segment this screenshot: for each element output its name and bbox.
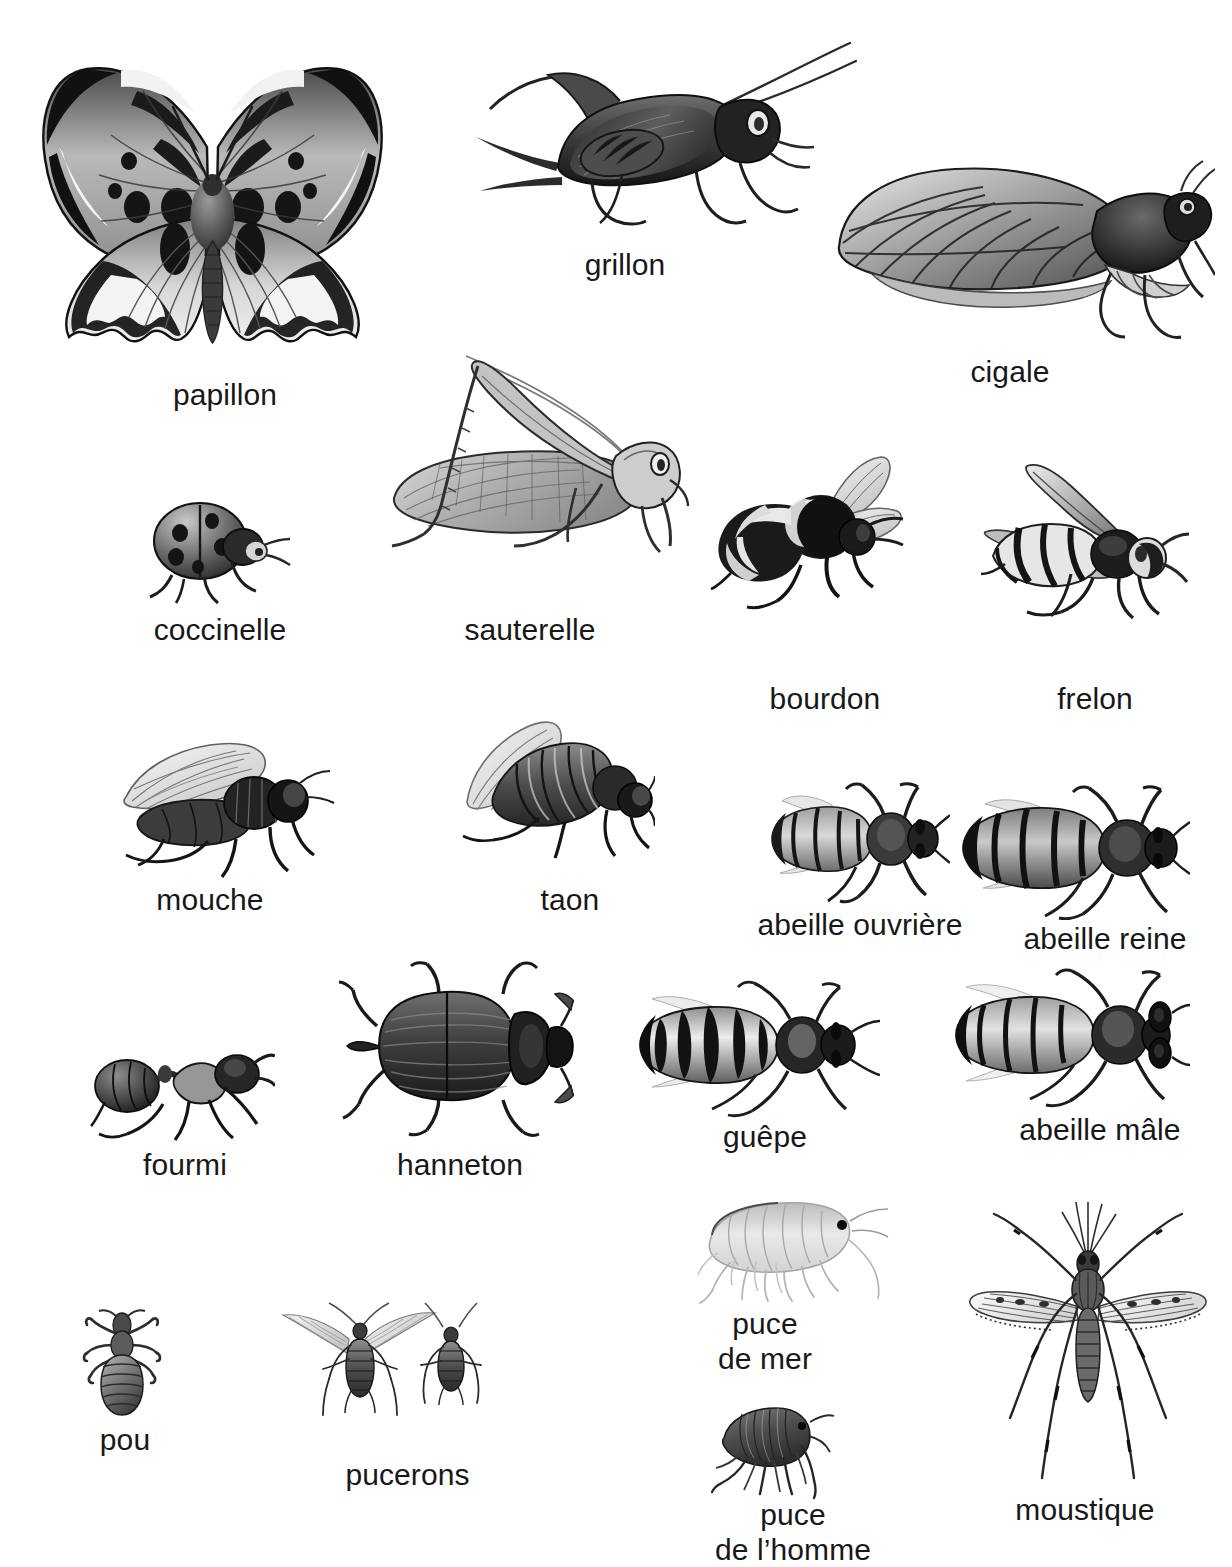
label-pucerons: pucerons bbox=[315, 1458, 500, 1492]
label-grillon: grillon bbox=[505, 248, 745, 282]
ladybug-illustration bbox=[140, 495, 295, 605]
label-abeille-ouvriere: abeille ouvrière bbox=[740, 908, 980, 942]
butterfly-illustration bbox=[25, 35, 400, 365]
label-fourmi: fourmi bbox=[95, 1148, 275, 1182]
grasshopper-illustration bbox=[370, 350, 690, 590]
label-guepe: guêpe bbox=[685, 1120, 845, 1154]
cockchafer-illustration bbox=[335, 960, 575, 1140]
label-puce-de-mer: puce de mer bbox=[670, 1307, 860, 1376]
label-bourdon: bourdon bbox=[715, 682, 935, 716]
housefly-illustration bbox=[110, 735, 345, 880]
ant-illustration bbox=[85, 1020, 275, 1145]
insect-vocabulary-poster: papillon bbox=[0, 0, 1232, 1567]
drone-bee-illustration bbox=[940, 965, 1190, 1110]
label-abeille-male: abeille mâle bbox=[1000, 1113, 1200, 1147]
aphids-illustration bbox=[275, 1295, 490, 1420]
horsefly-illustration bbox=[455, 718, 655, 868]
label-pou: pou bbox=[60, 1423, 190, 1457]
label-cigale: cigale bbox=[910, 355, 1110, 389]
label-abeille-reine: abeille reine bbox=[1000, 922, 1210, 956]
label-taon: taon bbox=[485, 883, 655, 917]
label-frelon: frelon bbox=[1005, 682, 1185, 716]
sandhopper-illustration bbox=[690, 1195, 890, 1310]
louse-illustration bbox=[75, 1305, 170, 1420]
worker-bee-illustration bbox=[760, 775, 950, 905]
label-hanneton: hanneton bbox=[370, 1148, 550, 1182]
cricket-illustration bbox=[470, 35, 860, 235]
label-papillon: papillon bbox=[100, 378, 350, 412]
mosquito-illustration bbox=[960, 1190, 1215, 1480]
human-flea-illustration bbox=[710, 1400, 835, 1500]
label-moustique: moustique bbox=[985, 1493, 1185, 1527]
label-sauterelle: sauterelle bbox=[420, 613, 640, 647]
label-mouche: mouche bbox=[100, 883, 320, 917]
queen-bee-illustration bbox=[955, 780, 1190, 920]
label-puce-de-l-homme: puce de l’homme bbox=[653, 1498, 933, 1567]
hornet-illustration bbox=[975, 460, 1190, 625]
wasp-illustration bbox=[630, 975, 880, 1120]
cicada-illustration bbox=[815, 155, 1215, 350]
bumblebee-illustration bbox=[705, 455, 905, 615]
label-coccinelle: coccinelle bbox=[110, 613, 330, 647]
